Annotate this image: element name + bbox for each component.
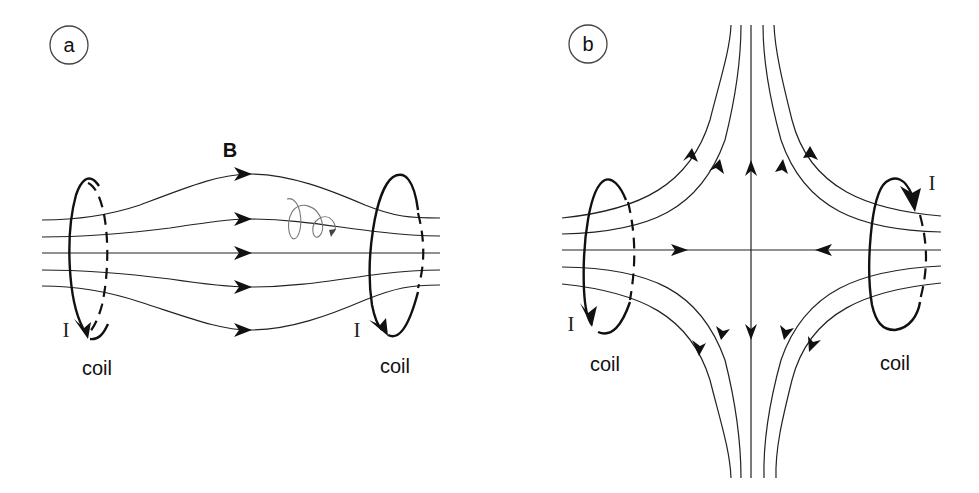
panel-a-label: a [63,34,75,56]
coil-left-b [580,179,634,333]
coil-right-label-a: coil [380,355,410,377]
current-left-label-b: I [568,312,575,336]
coil-right-label-b: coil [880,352,910,374]
field-b-label: B [223,139,237,161]
field-lines-b [562,25,941,478]
coil-left-label-b: coil [590,353,620,375]
coil-left-label-a: coil [82,357,112,379]
field-arrows-a [234,167,252,337]
panel-b: b [562,25,941,478]
coil-left-a [69,179,108,340]
coil-right-a [369,175,423,336]
magnetic-coil-diagram: a B I coil [0,0,979,493]
panel-a: a B I coil [42,26,440,379]
current-right-label-b: I [929,171,936,195]
current-left-label-a: I [63,318,70,342]
current-right-label-a: I [354,318,361,342]
particle-helix [287,199,336,239]
panel-b-label: b [582,33,593,55]
coil-right-b [869,178,926,330]
